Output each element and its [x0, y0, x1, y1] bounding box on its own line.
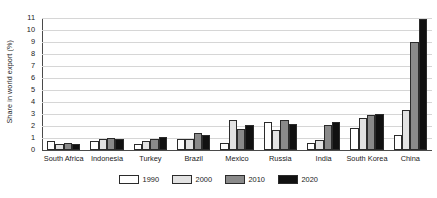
legend-swatch — [172, 175, 192, 184]
bar-group — [129, 18, 172, 150]
bars-layer — [42, 18, 432, 150]
legend-item[interactable]: 2020 — [278, 175, 318, 184]
bar[interactable] — [410, 42, 418, 150]
bar-group — [42, 18, 85, 150]
bar[interactable] — [185, 139, 193, 150]
bar[interactable] — [177, 139, 185, 150]
bar-group — [345, 18, 388, 150]
bar[interactable] — [159, 137, 167, 150]
plot-area — [42, 18, 432, 150]
bar-group — [85, 18, 128, 150]
legend-label: 2010 — [249, 175, 265, 184]
bar-group — [259, 18, 302, 150]
legend-swatch — [119, 175, 139, 184]
x-axis-tick-label: Indonesia — [85, 153, 128, 167]
legend-item[interactable]: 1990 — [119, 175, 159, 184]
x-axis-tick-label: Turkey — [129, 153, 172, 167]
bar-chart: Share in world export (%) 01234567891011… — [0, 0, 437, 198]
bar[interactable] — [90, 141, 98, 150]
x-axis-tick-label: China — [389, 153, 432, 167]
bar[interactable] — [367, 115, 375, 150]
legend-label: 2000 — [196, 175, 212, 184]
x-axis-tick-label: Mexico — [215, 153, 258, 167]
bar-group — [215, 18, 258, 150]
bar[interactable] — [229, 120, 237, 150]
y-axis-tick-label: 3 — [31, 110, 35, 117]
bar[interactable] — [107, 138, 115, 150]
bar[interactable] — [375, 114, 383, 150]
y-axis-tick-label: 11 — [27, 14, 35, 21]
chart-legend: 1990200020102020 — [0, 175, 437, 184]
bar[interactable] — [55, 144, 63, 150]
bar[interactable] — [272, 130, 280, 150]
bar[interactable] — [220, 143, 228, 150]
bar[interactable] — [289, 124, 297, 150]
bar[interactable] — [202, 135, 210, 150]
legend-item[interactable]: 2010 — [225, 175, 265, 184]
bar-group — [172, 18, 215, 150]
y-axis-tick-label: 2 — [31, 122, 35, 129]
y-axis-title-text: Share in world export (%) — [5, 40, 14, 124]
legend-item[interactable]: 2000 — [172, 175, 212, 184]
x-axis-tick-label: South Korea — [345, 153, 388, 167]
bar-group — [302, 18, 345, 150]
bar[interactable] — [115, 139, 123, 150]
bar[interactable] — [359, 118, 367, 150]
legend-label: 2020 — [301, 175, 317, 184]
bar[interactable] — [394, 135, 402, 150]
bar[interactable] — [47, 141, 55, 150]
legend-swatch — [278, 175, 298, 184]
y-axis-tick-label: 7 — [31, 62, 35, 69]
y-axis-tick-label: 1 — [31, 134, 35, 141]
y-axis-tick-label: 6 — [31, 74, 35, 81]
bar[interactable] — [194, 133, 202, 150]
y-axis-tick-label: 10 — [27, 26, 35, 33]
x-axis-tick-label: Brazil — [172, 153, 215, 167]
bar[interactable] — [264, 122, 272, 150]
grid-line — [42, 150, 432, 151]
bar[interactable] — [99, 139, 107, 150]
bar[interactable] — [64, 143, 72, 150]
bar[interactable] — [307, 143, 315, 150]
x-axis-tick-label: Russia — [259, 153, 302, 167]
legend-swatch — [225, 175, 245, 184]
bar[interactable] — [402, 110, 410, 150]
y-axis-tick-label: 4 — [31, 98, 35, 105]
bar-group — [389, 18, 432, 150]
bar[interactable] — [324, 125, 332, 150]
bar[interactable] — [280, 120, 288, 150]
bar[interactable] — [332, 122, 340, 150]
x-axis-tick-labels: South AfricaIndonesiaTurkeyBrazilMexicoR… — [42, 153, 432, 167]
bar[interactable] — [237, 129, 245, 150]
legend-label: 1990 — [143, 175, 159, 184]
y-axis-title: Share in world export (%) — [2, 16, 16, 148]
y-axis-tick-label: 9 — [31, 38, 35, 45]
y-axis-tick-label: 5 — [31, 86, 35, 93]
bar[interactable] — [245, 125, 253, 150]
bar[interactable] — [72, 144, 80, 150]
bar[interactable] — [134, 144, 142, 150]
x-axis-tick-label: South Africa — [42, 153, 85, 167]
y-axis-tick-labels: 01234567891011 — [20, 18, 38, 150]
x-axis-tick-label: India — [302, 153, 345, 167]
bar[interactable] — [150, 139, 158, 150]
bar[interactable] — [315, 140, 323, 150]
bar[interactable] — [350, 128, 358, 150]
y-axis-tick-label: 8 — [31, 50, 35, 57]
bar[interactable] — [142, 141, 150, 150]
bar[interactable] — [419, 19, 427, 150]
y-axis-tick-label: 0 — [31, 146, 35, 153]
